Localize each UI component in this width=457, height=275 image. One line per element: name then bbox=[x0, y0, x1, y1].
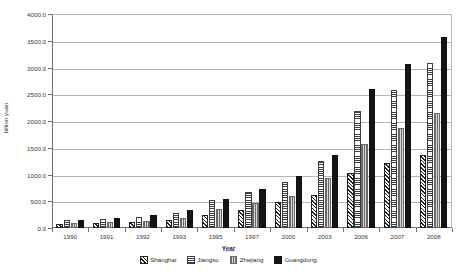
bar-shanghai-2007 bbox=[384, 163, 390, 228]
x-axis-tick-label: 1993 bbox=[161, 233, 197, 240]
bar-guangdong-2000 bbox=[296, 176, 302, 228]
x-axis-tick bbox=[52, 228, 53, 232]
x-axis-tick-label: 2000 bbox=[270, 233, 306, 240]
bar-jiangsu-1993 bbox=[173, 213, 179, 228]
bar-group bbox=[197, 14, 233, 228]
bar-shanghai-1997 bbox=[238, 210, 244, 228]
bar-group bbox=[125, 14, 161, 228]
bar-group bbox=[343, 14, 379, 228]
x-axis-title: Year bbox=[0, 245, 457, 252]
bar-jiangsu-1990 bbox=[64, 220, 70, 228]
bar-shanghai-2000 bbox=[275, 202, 281, 228]
legend-item-jiangsu: Jiangsu bbox=[187, 256, 218, 264]
y-axis-tick-label: 2000.0 bbox=[27, 118, 46, 125]
bar-shanghai-1992 bbox=[129, 222, 135, 228]
y-axis-tick-label: 2500.0 bbox=[27, 91, 46, 98]
bar-group bbox=[88, 14, 124, 228]
bar-group bbox=[234, 14, 270, 228]
legend-swatch-icon bbox=[187, 256, 195, 264]
x-axis-tick bbox=[197, 228, 198, 232]
y-axis-title: billion yuan bbox=[2, 103, 9, 134]
x-axis-tick bbox=[452, 228, 453, 232]
bar-group bbox=[416, 14, 452, 228]
bar-shanghai-1991 bbox=[93, 223, 99, 228]
bar-guangdong-1993 bbox=[187, 210, 193, 228]
bar-jiangsu-2003 bbox=[318, 161, 324, 228]
y-axis-tick-label: 3000.0 bbox=[27, 64, 46, 71]
x-axis-tick-label: 1997 bbox=[234, 233, 270, 240]
bar-jiangsu-1991 bbox=[100, 219, 106, 228]
legend-label: Jiangsu bbox=[197, 256, 218, 263]
bar-guangdong-2007 bbox=[405, 64, 411, 228]
bar-zhejiang-2008 bbox=[434, 113, 440, 228]
x-axis-tick-label: 2008 bbox=[416, 233, 452, 240]
x-axis-tick-label: 1990 bbox=[52, 233, 88, 240]
bar-guangdong-1995 bbox=[223, 199, 229, 228]
x-axis-tick bbox=[270, 228, 271, 232]
bar-zhejiang-2007 bbox=[398, 128, 404, 228]
bar-group bbox=[307, 14, 343, 228]
legend-label: Zhejiang bbox=[240, 256, 264, 263]
x-axis-tick bbox=[125, 228, 126, 232]
bar-shanghai-2006 bbox=[347, 173, 353, 228]
y-axis-tick-label: 4000.0 bbox=[27, 11, 46, 18]
bar-jiangsu-1995 bbox=[209, 200, 215, 228]
y-axis-tick-label: 0.0 bbox=[37, 225, 46, 232]
bar-group bbox=[379, 14, 415, 228]
bar-guangdong-1997 bbox=[259, 189, 265, 228]
bar-shanghai-2008 bbox=[420, 155, 426, 228]
x-axis-tick-label: 2007 bbox=[379, 233, 415, 240]
legend-swatch-icon bbox=[230, 256, 238, 264]
bar-guangdong-1990 bbox=[78, 220, 84, 228]
x-axis-tick bbox=[161, 228, 162, 232]
bar-shanghai-1993 bbox=[166, 220, 172, 228]
legend-item-guangdong: Guangdong bbox=[274, 256, 316, 264]
x-axis-tick bbox=[234, 228, 235, 232]
x-axis-tick bbox=[416, 228, 417, 232]
bar-guangdong-2006 bbox=[369, 89, 375, 228]
y-axis-tick-label: 1000.0 bbox=[27, 171, 46, 178]
bar-shanghai-1990 bbox=[56, 224, 62, 228]
bar-zhejiang-2003 bbox=[325, 178, 331, 228]
bar-group bbox=[270, 14, 306, 228]
y-axis-tick-label: 1500.0 bbox=[27, 144, 46, 151]
x-axis-tick-label: 1992 bbox=[125, 233, 161, 240]
legend-label: Guangdong bbox=[284, 256, 316, 263]
bar-jiangsu-2000 bbox=[282, 182, 288, 228]
chart-container: billion yuan 0.0500.01000.01500.02000.02… bbox=[0, 0, 457, 275]
legend-item-zhejiang: Zhejiang bbox=[230, 256, 264, 264]
bar-zhejiang-1995 bbox=[216, 209, 222, 228]
y-axis-tick-label: 3500.0 bbox=[27, 37, 46, 44]
x-axis-tick bbox=[343, 228, 344, 232]
bar-jiangsu-1992 bbox=[136, 217, 142, 228]
bar-zhejiang-1991 bbox=[107, 222, 113, 228]
bar-jiangsu-2006 bbox=[354, 111, 360, 228]
bar-shanghai-2003 bbox=[311, 195, 317, 228]
bar-zhejiang-1993 bbox=[180, 218, 186, 228]
bar-guangdong-1991 bbox=[114, 218, 120, 228]
bar-zhejiang-1997 bbox=[252, 203, 258, 228]
x-axis-tick bbox=[88, 228, 89, 232]
bar-zhejiang-2006 bbox=[361, 144, 367, 228]
bar-group bbox=[52, 14, 88, 228]
x-axis-tick-label: 2006 bbox=[343, 233, 379, 240]
bar-zhejiang-2000 bbox=[289, 196, 295, 228]
bar-zhejiang-1990 bbox=[71, 223, 77, 228]
bar-guangdong-2008 bbox=[441, 37, 447, 228]
bar-jiangsu-2008 bbox=[427, 63, 433, 228]
legend-swatch-icon bbox=[274, 256, 282, 264]
chart-legend: ShanghaiJiangsuZhejiangGuangdong bbox=[0, 256, 457, 264]
bar-shanghai-1995 bbox=[202, 215, 208, 228]
x-axis-tick bbox=[307, 228, 308, 232]
legend-item-shanghai: Shanghai bbox=[140, 256, 176, 264]
bar-jiangsu-1997 bbox=[245, 192, 251, 228]
bar-zhejiang-1992 bbox=[143, 221, 149, 228]
bar-guangdong-2003 bbox=[332, 155, 338, 228]
x-axis-labels: 1990199119921993199519972000200320062007… bbox=[52, 233, 452, 240]
x-axis-tick-label: 2003 bbox=[307, 233, 343, 240]
legend-label: Shanghai bbox=[150, 256, 176, 263]
legend-swatch-icon bbox=[140, 256, 148, 264]
bar-groups bbox=[52, 14, 452, 228]
bar-jiangsu-2007 bbox=[391, 90, 397, 228]
bar-guangdong-1992 bbox=[150, 215, 156, 228]
